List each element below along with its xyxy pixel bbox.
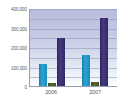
bar[interactable] [48, 83, 56, 86]
y-axis-tick-label: 200,000 [0, 46, 27, 51]
y-axis-tick-label: 400,000 [0, 7, 27, 12]
x-axis: 2006 2007 [29, 88, 117, 100]
bar[interactable] [82, 55, 90, 86]
bar[interactable] [91, 82, 99, 86]
bar[interactable] [100, 18, 108, 86]
x-axis-tick-label: 2006 [45, 88, 57, 96]
y-axis-tick-label: 100,000 [0, 65, 27, 70]
bar-group [39, 9, 65, 86]
bar[interactable] [57, 38, 65, 86]
bar[interactable] [39, 64, 47, 86]
y-axis: 400,000 300,000 200,000 100,000 0 [0, 0, 29, 102]
plot-area [29, 9, 117, 87]
bars-layer [30, 9, 117, 86]
y-axis-tick-label: 0 [0, 85, 27, 90]
bar-group [82, 9, 108, 86]
bar-chart: 400,000 300,000 200,000 100,000 0 [0, 0, 121, 102]
y-axis-tick-label: 300,000 [0, 26, 27, 31]
x-axis-tick-label: 2007 [89, 88, 101, 96]
